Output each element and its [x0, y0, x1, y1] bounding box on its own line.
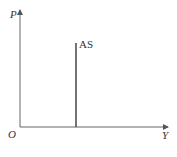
x-axis-label: Y — [162, 129, 170, 141]
as-label: AS — [79, 38, 93, 50]
origin-label: O — [8, 128, 16, 140]
y-axis-label: P — [9, 8, 17, 20]
as-diagram: P O Y AS — [0, 0, 177, 157]
